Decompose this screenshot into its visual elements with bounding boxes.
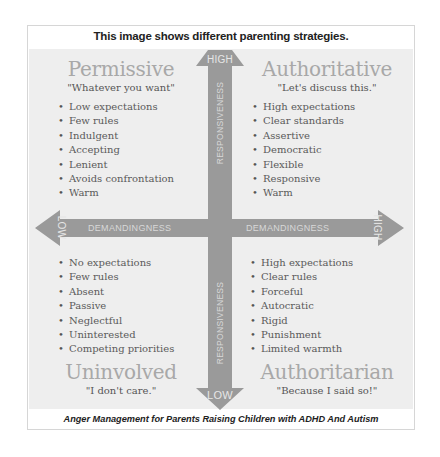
list-item: Avoids confrontation — [58, 172, 206, 186]
quadrant-title: Authoritative — [242, 58, 412, 80]
demandingness-label-left: DEMANDINGNESS — [88, 223, 171, 233]
quadrant-permissive: Permissive "Whatever you want" Low expec… — [36, 58, 206, 201]
list-item: Few rules — [58, 270, 206, 284]
horizontal-low-label: LOW — [56, 216, 67, 240]
list-item: Low expectations — [58, 100, 206, 114]
list-item: Accepting — [58, 143, 206, 157]
quadrant-title: Authoritarian — [242, 361, 412, 383]
quadrant-title: Uninvolved — [36, 361, 206, 383]
list-item: Limited warmth — [250, 342, 412, 356]
list-item: Competing priorities — [58, 342, 206, 356]
horizontal-high-label: HIGH — [372, 214, 383, 240]
list-item: Neglectful — [58, 314, 206, 328]
list-item: Absent — [58, 285, 206, 299]
list-item: Clear standards — [252, 114, 412, 128]
quadrant-uninvolved: No expectations Few rules Absent Passive… — [36, 256, 206, 398]
quadrant-quote: "Let's discuss this." — [242, 81, 412, 95]
list-item: Warm — [252, 186, 412, 200]
responsiveness-label-bottom: RESPONSIVENESS — [215, 273, 225, 373]
quadrant-authoritative: Authoritative "Let's discuss this." High… — [242, 58, 412, 201]
demandingness-label-right: DEMANDINGNESS — [246, 223, 329, 233]
list-item: No expectations — [58, 256, 206, 270]
quadrant-authoritarian: High expectations Clear rules Forceful A… — [242, 256, 412, 398]
list-item: Clear rules — [250, 270, 412, 284]
list-item: Rigid — [250, 314, 412, 328]
list-item: Autocratic — [250, 299, 412, 313]
list-item: Passive — [58, 299, 206, 313]
list-item: Indulgent — [58, 129, 206, 143]
vertical-high-label: HIGH — [203, 54, 237, 65]
list-item: Forceful — [250, 285, 412, 299]
responsiveness-label-top: RESPONSIVENESS — [215, 73, 225, 173]
list-item: Assertive — [252, 129, 412, 143]
trait-list: High expectations Clear standards Assert… — [252, 100, 412, 201]
trait-list: Low expectations Few rules Indulgent Acc… — [58, 100, 206, 201]
list-item: Flexible — [252, 158, 412, 172]
trait-list: High expectations Clear rules Forceful A… — [250, 256, 412, 357]
list-item: Responsive — [252, 172, 412, 186]
quadrant-quote: "Because I said so!" — [242, 384, 412, 398]
quadrant-quote: "Whatever you want" — [36, 81, 206, 95]
list-item: Uninterested — [58, 328, 206, 342]
list-item: High expectations — [250, 256, 412, 270]
trait-list: No expectations Few rules Absent Passive… — [58, 256, 206, 357]
list-item: Punishment — [250, 328, 412, 342]
quadrant-quote: "I don't care." — [36, 384, 206, 398]
list-item: High expectations — [252, 100, 412, 114]
list-item: Few rules — [58, 114, 206, 128]
quadrant-title: Permissive — [36, 58, 206, 80]
vertical-low-label: LOW — [203, 389, 237, 401]
list-item: Lenient — [58, 158, 206, 172]
list-item: Democratic — [252, 143, 412, 157]
list-item: Warm — [58, 186, 206, 200]
